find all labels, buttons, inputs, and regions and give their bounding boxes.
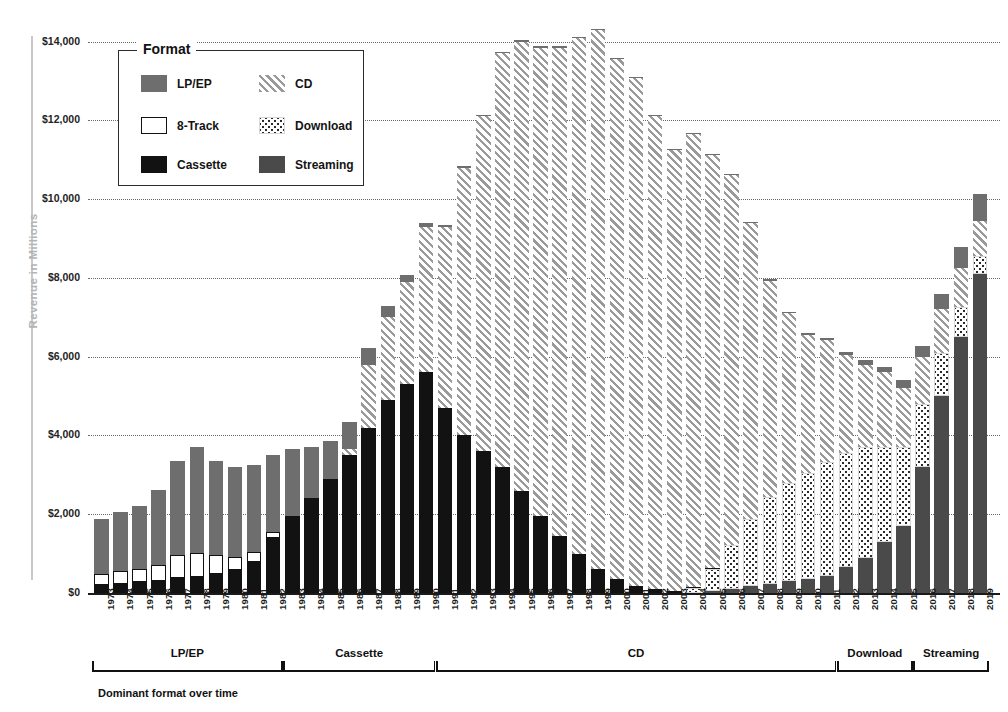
stacked-bar[interactable]	[94, 519, 109, 593]
bracket-tick-left	[913, 661, 915, 672]
x-tick-label: 2016	[927, 588, 938, 610]
stacked-bar[interactable]	[743, 223, 758, 593]
legend-item-download[interactable]: Download	[259, 117, 352, 134]
stacked-bar[interactable]	[438, 225, 453, 593]
x-tick-label: 1992	[468, 588, 479, 610]
bar-segment-streaming	[896, 526, 911, 593]
x-tick-label: 2017	[946, 588, 957, 610]
bar-segment-cd	[438, 227, 453, 408]
stacked-bar[interactable]	[915, 346, 930, 593]
bar-segment-eighttrack	[285, 516, 300, 518]
stacked-bar[interactable]	[190, 447, 205, 593]
stacked-bar[interactable]	[533, 47, 548, 593]
bar-segment-download	[877, 447, 892, 542]
bar-segment-cd	[782, 313, 797, 482]
bar-segment-cd	[724, 175, 739, 545]
x-tick-label: 1990	[430, 588, 441, 610]
legend-item-cd[interactable]: CD	[259, 75, 312, 92]
legend-item-eighttrack[interactable]: 8-Track	[141, 117, 219, 134]
legend-item-streaming[interactable]: Streaming	[259, 156, 354, 173]
stacked-bar[interactable]	[973, 194, 988, 593]
stacked-bar[interactable]	[648, 116, 663, 593]
stacked-bar[interactable]	[552, 47, 567, 593]
bar-segment-cassette	[438, 408, 453, 593]
stacked-bar[interactable]	[629, 77, 644, 593]
y-tick-label: $6,000	[14, 350, 80, 362]
bar-segment-eighttrack	[113, 571, 128, 584]
bar-segment-download	[743, 519, 758, 586]
x-tick-label: 2019	[984, 588, 995, 610]
stacked-bar[interactable]	[304, 447, 319, 594]
x-tick-label: 1975	[144, 588, 155, 610]
stacked-bar[interactable]	[591, 29, 606, 593]
bar-segment-streaming	[934, 396, 949, 593]
x-tick-label: 1999	[602, 588, 613, 610]
stacked-bar[interactable]	[266, 455, 281, 593]
x-tick-label: 2012	[850, 588, 861, 610]
bar-segment-download	[934, 353, 949, 396]
stacked-bar[interactable]	[151, 490, 166, 593]
stacked-bar[interactable]	[782, 312, 797, 593]
stacked-bar[interactable]	[763, 280, 778, 593]
stacked-bar[interactable]	[476, 116, 491, 593]
bar-segment-download	[858, 447, 873, 557]
bar-segment-lpep	[514, 40, 529, 41]
stacked-bar[interactable]	[705, 154, 720, 593]
stacked-bar[interactable]	[495, 53, 510, 593]
stacked-bar[interactable]	[342, 422, 357, 593]
stacked-bar[interactable]	[934, 294, 949, 593]
bar-segment-lpep	[743, 222, 758, 223]
stacked-bar[interactable]	[801, 333, 816, 593]
legend-swatch-cassette	[141, 156, 167, 173]
stacked-bar[interactable]	[667, 149, 682, 593]
stacked-bar[interactable]	[228, 467, 243, 593]
stacked-bar[interactable]	[724, 174, 739, 593]
legend-item-lpep[interactable]: LP/EP	[141, 75, 212, 92]
bar-segment-cd	[610, 59, 625, 579]
stacked-bar[interactable]	[285, 449, 300, 593]
stacked-bar[interactable]	[381, 306, 396, 594]
bar-segment-cd	[667, 150, 682, 591]
stacked-bar[interactable]	[686, 133, 701, 593]
stacked-bar[interactable]	[610, 59, 625, 593]
stacked-bar[interactable]	[247, 465, 262, 593]
stacked-bar[interactable]	[954, 247, 969, 593]
bracket-download: Download	[837, 655, 913, 672]
bar-segment-cassette	[457, 435, 472, 593]
bar-segment-cd	[400, 282, 415, 384]
x-tick-label: 2000	[621, 588, 632, 610]
bar-segment-lpep	[763, 279, 778, 280]
stacked-bar[interactable]	[361, 348, 376, 593]
x-tick-label: 2003	[678, 588, 689, 610]
bar-segment-cassette	[285, 518, 300, 593]
bracket-bar	[837, 670, 913, 672]
bar-segment-lpep	[266, 455, 281, 532]
bracket-cd: CD	[436, 655, 837, 672]
stacked-bar[interactable]	[209, 461, 224, 593]
bracket-bar	[436, 670, 837, 672]
stacked-bar[interactable]	[858, 360, 873, 593]
bar-segment-cassette	[323, 479, 338, 593]
stacked-bar[interactable]	[572, 37, 587, 593]
x-tick-label: 2014	[888, 588, 899, 610]
stacked-bar[interactable]	[170, 461, 185, 593]
stacked-bar[interactable]	[896, 380, 911, 593]
stacked-bar[interactable]	[400, 275, 415, 593]
x-tick-label: 1983	[296, 588, 307, 610]
stacked-bar[interactable]	[514, 41, 529, 593]
bar-segment-cd	[533, 48, 548, 517]
stacked-bar[interactable]	[132, 506, 147, 593]
bar-segment-streaming	[915, 467, 930, 593]
bar-segment-lpep	[973, 194, 988, 221]
legend-item-cassette[interactable]: Cassette	[141, 156, 227, 173]
stacked-bar[interactable]	[419, 223, 434, 593]
y-axis-title-group: Revenue in Millions	[8, 0, 42, 640]
stacked-bar[interactable]	[323, 441, 338, 593]
stacked-bar[interactable]	[820, 338, 835, 593]
stacked-bar[interactable]	[113, 512, 128, 593]
stacked-bar[interactable]	[457, 167, 472, 593]
stacked-bar[interactable]	[877, 367, 892, 593]
stacked-bar[interactable]	[839, 352, 854, 593]
bracket-cassette: Cassette	[283, 655, 435, 672]
x-tick-label: 2006	[736, 588, 747, 610]
